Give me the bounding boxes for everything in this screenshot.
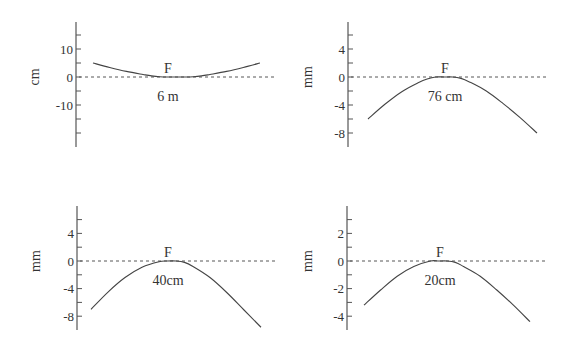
focus-label: F [436,245,444,260]
y-tick-label: 0 [68,254,75,269]
y-tick-label: -8 [334,126,345,141]
panel-bottom-left: 40-4-8 mm F 40cm [28,206,276,330]
profile-curve [368,77,537,133]
y-tick-labels: 40-4-8 [63,226,74,324]
y-axis-label: cm [27,68,42,85]
distance-label: 40cm [152,273,183,288]
y-tick-label: 2 [338,226,345,241]
focus-label: F [164,245,172,260]
y-tick-labels: 40-4-8 [334,42,345,141]
profile-curve [93,63,260,77]
y-tick-label: 4 [68,226,75,241]
panel-bottom-right: 20-2-4 mm F 20cm [300,206,548,330]
profile-curve [364,261,530,322]
panel-top-right: 40-4-8 mm F 76 cm [300,22,549,147]
y-ticks [77,220,82,317]
y-tick-label: -8 [63,309,74,324]
distance-label: 20cm [424,273,455,288]
distance-label: 76 cm [428,89,463,104]
y-tick-label: -4 [334,98,345,113]
y-tick-label: -4 [333,309,344,324]
y-tick-labels: 100-10 [56,42,73,113]
profile-curve [91,261,261,327]
figure: 100-10 cm F 6 m 40-4-8 mm F 76 cm 40-4-8… [0,0,577,347]
y-ticks [348,35,353,133]
y-tick-labels: 20-2-4 [333,226,344,324]
y-axis-label: mm [300,250,315,272]
y-tick-label: -2 [333,281,344,296]
y-ticks [76,35,81,133]
distance-label: 6 m [157,89,179,104]
focus-label: F [441,61,449,76]
chart-canvas: 100-10 cm F 6 m 40-4-8 mm F 76 cm 40-4-8… [0,0,577,347]
y-tick-label: 4 [339,42,346,57]
y-tick-label: 10 [60,42,73,57]
y-tick-label: 0 [67,70,74,85]
y-axis-label: mm [300,66,315,88]
y-axis-label: mm [28,250,43,272]
y-tick-label: -4 [63,281,74,296]
focus-label: F [164,61,172,76]
y-tick-label: 0 [338,254,345,269]
y-tick-label: 0 [339,70,346,85]
y-ticks [347,220,352,317]
y-tick-label: -10 [56,98,73,113]
panel-top-left: 100-10 cm F 6 m [27,22,275,147]
